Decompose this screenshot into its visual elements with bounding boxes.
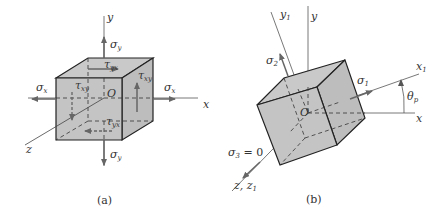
theta-p-arrowhead-icon [398, 79, 404, 86]
sigma-y-bottom-label: σy [110, 148, 123, 162]
sigma-x-right-label: σx [164, 81, 176, 95]
z-z1-axis-label: z, z1 [233, 179, 257, 193]
panel-b-principal-stress-element: y y1 x1 x z, z1 O σ1 σ2 σ3 = 0 θp (b) [228, 6, 427, 206]
sigma-3-arrow [243, 162, 260, 178]
x1-axis-label: x1 [416, 60, 427, 74]
z-axis-label: z [25, 143, 32, 156]
y-axis-label: y [310, 10, 318, 23]
panel-b-caption: (b) [306, 193, 322, 206]
sigma-x-left-label: σx [36, 81, 48, 95]
panel-a-plane-stress-element: y x z O σy σy σx σx τyx τxy τxy τyx (a) [25, 11, 210, 207]
origin-label: O [107, 87, 116, 100]
stress-element-figure: y x z O σy σy σx σx τyx τxy τxy τyx (a) [0, 0, 439, 217]
origin-label: O [300, 106, 309, 119]
x-axis-label: x [416, 112, 423, 125]
sigma-1-label: σ1 [357, 74, 369, 88]
y1-axis-label: y1 [279, 8, 291, 22]
y-axis-label: y [106, 11, 114, 24]
sigma-3-label: σ3 = 0 [228, 146, 263, 160]
sigma-2-label: σ2 [266, 54, 279, 68]
panel-a-caption: (a) [97, 194, 112, 207]
sigma-y-top-label: σy [110, 38, 123, 52]
sigma-2-arrow [280, 54, 288, 76]
x-axis-label: x [203, 98, 210, 111]
theta-p-label: θp [407, 90, 419, 104]
